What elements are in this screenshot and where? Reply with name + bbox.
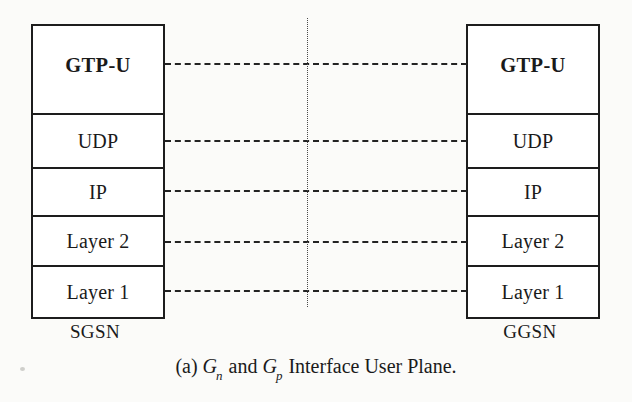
stack-layer-gtpu-left: GTP-U [33, 26, 163, 115]
layer-label: IP [89, 182, 107, 202]
layer-label: Layer 2 [66, 231, 129, 251]
layer-label: IP [524, 182, 542, 202]
stack-layer-layer2-left: Layer 2 [33, 217, 163, 267]
peer-link-udp [165, 140, 467, 142]
caption-prefix: (a) [175, 355, 197, 377]
layer-label: UDP [78, 131, 119, 151]
interface-reference-divider [307, 18, 308, 307]
layer-label: UDP [513, 131, 554, 151]
peer-link-layer2 [165, 241, 467, 243]
layer-label: Layer 1 [501, 282, 564, 302]
figure-caption: (a)GnandGpInterface User Plane. [0, 355, 632, 382]
stack-layer-ip-right: IP [468, 169, 598, 217]
node-label-sgsn: SGSN [28, 321, 162, 343]
layer-label: GTP-U [500, 55, 565, 76]
node-label-ggsn: GGSN [463, 321, 597, 343]
layer-label: GTP-U [65, 55, 130, 76]
protocol-stack-sgsn: GTP-U UDP IP Layer 2 Layer 1 [31, 24, 165, 319]
peer-link-gtpu [165, 63, 467, 65]
stack-layer-udp-left: UDP [33, 115, 163, 169]
protocol-stack-ggsn: GTP-U UDP IP Layer 2 Layer 1 [466, 24, 600, 319]
stack-layer-layer1-left: Layer 1 [33, 267, 163, 317]
peer-link-layer1 [165, 290, 467, 292]
stack-layer-layer1-right: Layer 1 [468, 267, 598, 317]
stack-layer-gtpu-right: GTP-U [468, 26, 598, 115]
caption-variable-gn: G [203, 355, 217, 377]
layer-label: Layer 1 [66, 282, 129, 302]
caption-subscript-n: n [216, 368, 223, 383]
stack-layer-ip-left: IP [33, 169, 163, 217]
caption-variable-gp: G [262, 355, 276, 377]
caption-subscript-p: p [276, 368, 283, 383]
layer-label: Layer 2 [501, 231, 564, 251]
caption-conjunction: and [229, 355, 258, 377]
caption-suffix: Interface User Plane. [288, 355, 456, 377]
peer-link-ip [165, 190, 467, 192]
scan-artifact-speck [20, 367, 25, 371]
figure-canvas: GTP-U UDP IP Layer 2 Layer 1 GTP-U UDP I… [0, 0, 632, 402]
stack-layer-udp-right: UDP [468, 115, 598, 169]
stack-layer-layer2-right: Layer 2 [468, 217, 598, 267]
